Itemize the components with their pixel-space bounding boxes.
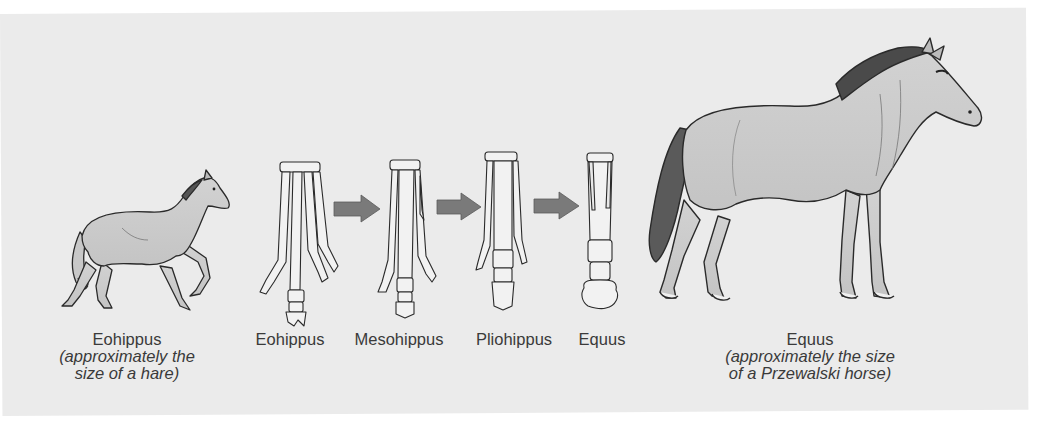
caption-name: Pliohippus	[468, 331, 560, 348]
arrow-icon	[334, 195, 380, 222]
equus-animal-drawing	[649, 38, 981, 300]
arrow-icon	[437, 193, 481, 220]
mesohippus-foot-bones	[378, 160, 436, 318]
caption-name: Equus	[695, 331, 925, 348]
caption-name: Mesohippus	[345, 331, 453, 348]
caption-size-note: (approximately the	[42, 348, 212, 365]
caption-size-note: (approximately the size	[695, 348, 925, 365]
caption-equus-foot: Equus	[572, 331, 632, 348]
caption-pliohippus-foot: Pliohippus	[468, 331, 560, 348]
caption-name: Equus	[572, 331, 632, 348]
caption-name: Eohippus	[245, 331, 335, 348]
caption-eohippus-foot: Eohippus	[245, 331, 335, 348]
arrow-icon	[534, 192, 579, 219]
caption-size-note: size of a hare)	[42, 365, 212, 382]
eohippus-animal-drawing	[62, 170, 229, 310]
caption-eohippus-animal: Eohippus (approximately the size of a ha…	[42, 331, 212, 382]
equus-foot-bones	[582, 153, 618, 309]
pliohippus-foot-bones	[476, 152, 527, 310]
caption-name: Eohippus	[42, 331, 212, 348]
caption-equus-animal: Equus (approximately the size of a Przew…	[695, 331, 925, 382]
caption-mesohippus-foot: Mesohippus	[345, 331, 453, 348]
caption-size-note: of a Przewalski horse)	[695, 365, 925, 382]
eohippus-foot-bones	[260, 162, 338, 326]
